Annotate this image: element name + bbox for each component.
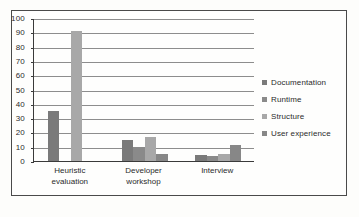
- y-axis-tick: [31, 162, 34, 163]
- legend-label: User experience: [271, 130, 331, 138]
- legend-swatch-icon: [262, 97, 267, 102]
- y-axis-tick-label: 80: [16, 44, 25, 52]
- x-axis-category-labels: Heuristic evaluationDeveloper workshopIn…: [33, 166, 254, 194]
- y-axis-tick-label: 90: [16, 29, 25, 37]
- y-axis-tick-label: 60: [16, 72, 25, 80]
- x-axis-label: Heuristic evaluation: [33, 166, 107, 187]
- bar: [207, 156, 219, 161]
- bar: [230, 145, 242, 161]
- y-axis-tick-label: 40: [16, 101, 25, 109]
- legend-swatch-icon: [262, 114, 267, 119]
- legend-label: Structure: [271, 113, 304, 121]
- y-axis-tick-label: 100: [11, 15, 25, 23]
- legend-item: User experience: [262, 125, 354, 142]
- bar: [218, 154, 230, 161]
- y-axis-tick-label: 10: [16, 144, 25, 152]
- x-axis-label: Interview: [180, 166, 254, 177]
- y-axis-tick-labels: 0102030405060708090100: [0, 19, 30, 162]
- legend-item: Documentation: [262, 74, 354, 91]
- x-axis-label: Developer workshop: [107, 166, 181, 187]
- y-axis-tick-label: 20: [16, 129, 25, 137]
- bar: [145, 137, 157, 161]
- legend-swatch-icon: [262, 131, 267, 136]
- y-axis-tick-label: 50: [16, 87, 25, 95]
- y-axis-tick-label: 30: [16, 115, 25, 123]
- legend-label: Runtime: [271, 96, 302, 104]
- chart-container: 0102030405060708090100 Heuristic evaluat…: [0, 0, 359, 217]
- y-axis-tick-label: 70: [16, 58, 25, 66]
- bar: [156, 154, 168, 161]
- bar: [122, 140, 134, 161]
- bar: [71, 31, 83, 161]
- bars-layer: [34, 19, 254, 161]
- bar: [48, 111, 60, 161]
- legend-label: Documentation: [271, 79, 326, 87]
- legend-item: Runtime: [262, 91, 354, 108]
- legend-item: Structure: [262, 108, 354, 125]
- chart-legend: DocumentationRuntimeStructureUser experi…: [262, 74, 354, 142]
- y-axis-tick-label: 0: [20, 158, 25, 166]
- legend-swatch-icon: [262, 80, 267, 85]
- bar: [133, 147, 145, 161]
- plot-area: [33, 19, 254, 162]
- bar: [195, 155, 207, 161]
